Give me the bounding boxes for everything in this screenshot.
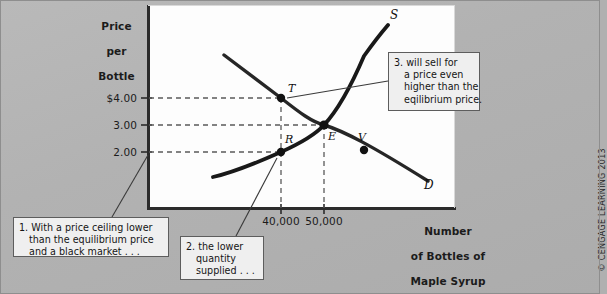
y-axis-title-line-1: Price [101, 20, 131, 32]
callout-1-line-3: and a black market . . . [19, 246, 162, 258]
point-E [319, 120, 328, 129]
point-label-V: V [358, 131, 366, 144]
callout-2-line-1: 2. the lower [186, 241, 257, 253]
x-axis-title-line-2: of Bottles of [411, 250, 485, 262]
point-V [360, 146, 368, 154]
callout-3-line-3: higher than the [394, 81, 473, 93]
y-tick-label-200: 2.00 [75, 146, 137, 158]
callout-3-line-2: a price even [394, 69, 473, 81]
copyright-notice: © CENGAGE LEARNING 2013 [598, 148, 607, 271]
point-label-T: T [288, 82, 295, 95]
supply-curve-label: S [390, 8, 398, 22]
supply-curve [213, 25, 388, 177]
callout-3: 3. will sell for a price even higher tha… [388, 52, 480, 111]
x-axis-title-line-3: Maple Syrup [410, 275, 485, 287]
callout-1-line-2: than the equilibrium price [19, 234, 162, 246]
point-R [277, 148, 285, 156]
point-label-R: R [285, 133, 293, 146]
x-tick-label-50000: 50,000 [294, 215, 354, 227]
callout-1-leader [112, 155, 148, 217]
callout-2: 2. the lower quantity supplied . . . [180, 236, 264, 280]
point-T [277, 94, 285, 102]
callout-2-line-3: supplied . . . [186, 265, 257, 277]
callout-3-line-4: eqilibrium price. [394, 94, 473, 106]
demand-curve-label: D [424, 178, 434, 192]
point-label-E: E [328, 130, 336, 143]
y-axis-title: Price per Bottle [78, 7, 140, 95]
callout-1-line-1: 1. With a price ceiling lower [19, 222, 162, 234]
y-axis-title-line-2: per [106, 45, 126, 57]
y-tick-label-300: 3.00 [75, 119, 137, 131]
callout-1: 1. With a price ceiling lower than the e… [13, 217, 169, 257]
callout-3-leader [287, 81, 388, 98]
callout-2-line-2: quantity [186, 253, 257, 265]
x-axis-title-line-1: Number [424, 225, 472, 237]
y-axis-title-line-3: Bottle [98, 70, 135, 82]
x-axis-title: Number of Bottles of Maple Syrup [383, 212, 498, 294]
y-tick-label-400: $4.00 [75, 92, 137, 104]
callout-3-line-1: 3. will sell for [394, 57, 473, 69]
